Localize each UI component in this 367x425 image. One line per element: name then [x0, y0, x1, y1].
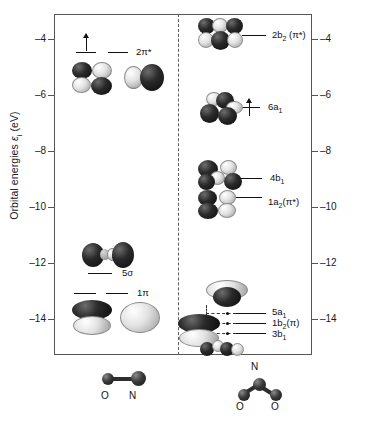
level-bar-1b2	[236, 323, 266, 324]
connector-dot-3b1	[226, 332, 229, 335]
level-label-3b1: 3b1	[272, 328, 286, 341]
level-label-6a1: 6a1	[268, 101, 282, 114]
molecule-NO2	[244, 374, 306, 400]
level-bar-3b1	[236, 333, 266, 334]
ticklabel-right-6: –6	[320, 89, 346, 100]
tick-right-6	[312, 95, 318, 96]
atom-N	[131, 371, 146, 386]
y-axis-label-left: Orbital energies εi (eV)	[8, 96, 23, 236]
tick-left-8	[48, 151, 54, 152]
molecule-label-O: O	[101, 390, 109, 401]
atom-O	[102, 373, 114, 385]
ticklabel-left-6: –6	[20, 89, 46, 100]
molecule-label-N-center: N	[251, 361, 258, 372]
tick-right-14	[312, 319, 318, 320]
tick-left-4	[48, 39, 54, 40]
connector-dot-5a1	[226, 312, 229, 315]
ticklabel-left-4: –4	[20, 33, 46, 44]
y-axis-epsilon-left: εi	[8, 135, 20, 142]
orbital-lobes-5sigma	[82, 242, 134, 268]
molecule-label-O-left: O	[236, 401, 244, 412]
atom-N-center	[253, 378, 266, 391]
atom-O-right	[270, 389, 282, 401]
level-label-2b2: 2b2 (π*)	[272, 29, 306, 42]
tick-left-14	[48, 319, 54, 320]
level-bar-5a1	[236, 313, 266, 314]
level-label-2pi-star: 2π*	[136, 46, 152, 57]
level-label-1a2: 1a2(π*)	[268, 196, 299, 209]
level-label-1pi: 1π	[137, 287, 149, 298]
level-label-4b1: 4b1	[270, 172, 284, 185]
orbital-lobes-3b1	[200, 340, 246, 360]
level-bar-2b2	[242, 35, 266, 36]
level-bar-5sigma	[88, 273, 112, 274]
orbital-lobes-5a1	[206, 280, 250, 310]
ticklabel-right-14: –14	[320, 313, 346, 324]
atom-O-left	[238, 389, 250, 401]
connector-dot-1b2	[226, 322, 229, 325]
tick-left-10	[48, 207, 54, 208]
orbital-lobes-2pi-star-b	[124, 64, 164, 94]
tick-right-12	[312, 263, 318, 264]
orbital-lobes-2b2	[198, 18, 244, 52]
electron-arrow-6a1	[249, 99, 250, 116]
molecule-NO	[100, 370, 152, 388]
ticklabel-right-8: –8	[320, 145, 346, 156]
orbital-lobes-1a2	[198, 190, 244, 220]
molecule-label-O-right: O	[271, 401, 279, 412]
ticklabel-left-8: –8	[20, 145, 46, 156]
orbital-lobes-6a1	[200, 92, 244, 126]
y-axis-label-left-text: Orbital energies	[8, 144, 20, 220]
ticklabel-left-10: –10	[20, 201, 46, 212]
ticklabel-left-12: –12	[20, 257, 46, 268]
tick-right-8	[312, 151, 318, 152]
ticklabel-right-12: –12	[320, 257, 346, 268]
level-bar-2pi-star-b	[108, 52, 128, 53]
ticklabel-left-14: –14	[20, 313, 46, 324]
molecule-label-N: N	[129, 390, 136, 401]
ticklabel-right-4: –4	[320, 33, 346, 44]
orbital-lobes-2pi-star-a	[72, 62, 116, 96]
level-label-5sigma: 5σ	[122, 267, 133, 278]
tick-right-4	[312, 39, 318, 40]
mo-energy-diagram-figure: Orbital energies εi (eV) Orbital energie…	[0, 0, 367, 425]
ticklabel-right-10: –10	[320, 201, 346, 212]
electron-arrow-2pi-star	[86, 34, 87, 51]
tick-left-12	[48, 263, 54, 264]
level-bar-2pi-star-a	[76, 52, 96, 53]
orbital-lobes-1pi-b	[120, 302, 162, 334]
panel-divider	[178, 14, 179, 355]
tick-left-6	[48, 95, 54, 96]
level-bar-1pi-b	[106, 293, 128, 294]
y-axis-unit-left: (eV)	[8, 111, 20, 131]
orbital-lobes-4b1	[198, 160, 244, 192]
tick-right-10	[312, 207, 318, 208]
orbital-lobes-1pi-a	[72, 300, 116, 336]
level-bar-1pi-a	[74, 293, 96, 294]
